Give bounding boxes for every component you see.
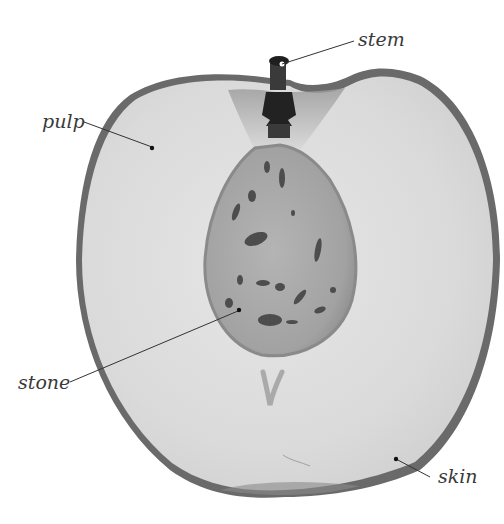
label-pulp: pulp xyxy=(42,112,85,131)
label-stem: stem xyxy=(358,30,405,49)
stem-leader-line xyxy=(282,41,354,64)
label-skin: skin xyxy=(438,467,478,486)
fruit-cross-section-diagram: stem pulp stone skin xyxy=(0,0,504,524)
stem xyxy=(262,56,296,138)
label-stone: stone xyxy=(18,373,70,392)
